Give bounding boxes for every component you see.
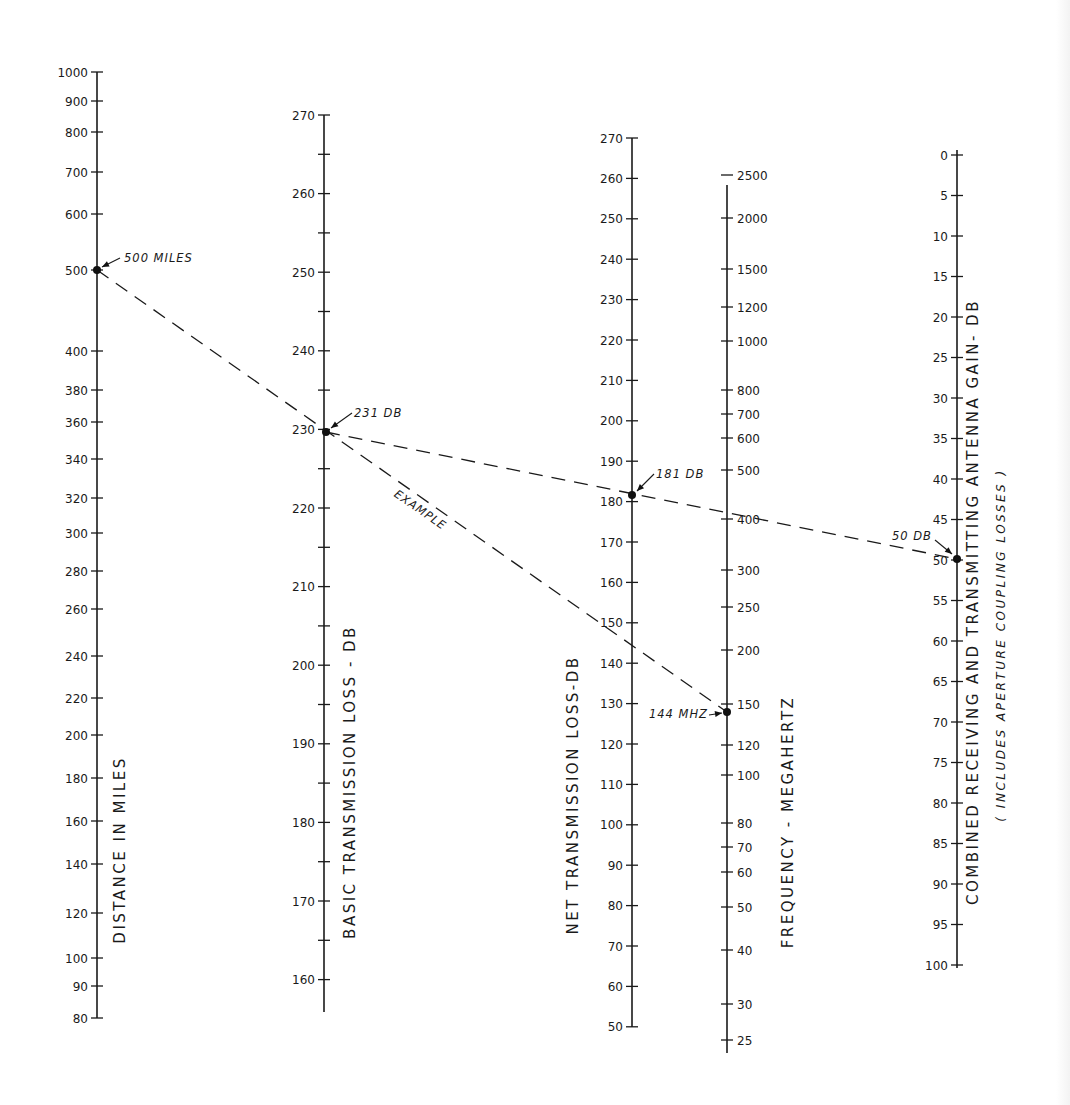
tick-label: 100 [600, 818, 623, 832]
point-label: 144 MHZ [649, 707, 708, 721]
tick-label: 140 [65, 858, 88, 872]
tick-label: 65 [933, 675, 948, 689]
tick-label: 800 [65, 126, 88, 140]
tick-label: 180 [292, 816, 315, 830]
tick-label: 500 [737, 464, 760, 478]
tick-label: 2000 [737, 212, 768, 226]
tick-label: 120 [737, 739, 760, 753]
tick-label: 270 [292, 109, 315, 123]
tick-label: 160 [600, 576, 623, 590]
axis-title: DISTANCE IN MILES [111, 756, 129, 943]
tick-label: 400 [737, 513, 760, 527]
point-marker [93, 266, 101, 274]
tick-label: 240 [292, 344, 315, 358]
tick-label: 1000 [737, 335, 768, 349]
tick-label: 150 [600, 616, 623, 630]
tick-label: 80 [933, 797, 948, 811]
tick-label: 260 [65, 603, 88, 617]
tick-label: 180 [65, 772, 88, 786]
tick-label: 700 [737, 408, 760, 422]
tick-label: 100 [65, 952, 88, 966]
tick-label: 25 [737, 1034, 752, 1048]
axis-title: BASIC TRANSMISSION LOSS - DB [341, 625, 359, 939]
tick-label: 380 [65, 384, 88, 398]
tick-label: 200 [65, 729, 88, 743]
tick-label: 15 [933, 270, 948, 284]
tick-label: 280 [65, 565, 88, 579]
tick-label: 2500 [737, 169, 768, 183]
tick-label: 70 [608, 940, 623, 954]
axis-net_loss: 2702602502402302202102001901801701601501… [564, 132, 638, 1035]
arrowhead-icon [331, 421, 338, 428]
tick-label: 220 [65, 692, 88, 706]
tick-label: 230 [600, 293, 623, 307]
tick-label: 80 [73, 1012, 88, 1026]
point-marker [953, 555, 961, 563]
example-point-antenna_gain: 50 DB [892, 529, 961, 563]
tick-label: 70 [933, 716, 948, 730]
tick-label: 40 [737, 944, 752, 958]
tick-label: 160 [65, 815, 88, 829]
tick-label: 600 [737, 432, 760, 446]
axis-subtitle: ( INCLUDES APERTURE COUPLING LOSSES ) [994, 468, 1008, 821]
tick-label: 85 [933, 837, 948, 851]
example-point-net_loss: 181 DB [628, 467, 704, 499]
point-label: 181 DB [656, 467, 704, 481]
point-marker [628, 491, 636, 499]
tick-label: 190 [600, 455, 623, 469]
tick-label: 360 [65, 416, 88, 430]
axis-frequency: 2500200015001200100080070060050040030025… [721, 169, 797, 1054]
tick-label: 80 [608, 899, 623, 913]
tick-label: 250 [292, 266, 315, 280]
tick-label: 220 [292, 502, 315, 516]
nomogram-chart: 1000900800700600500400380360340320300280… [0, 0, 1070, 1105]
tick-label: 250 [600, 212, 623, 226]
tick-label: 170 [600, 536, 623, 550]
tick-label: 60 [608, 980, 623, 994]
tick-label: 100 [737, 769, 760, 783]
tick-label: 1200 [737, 301, 768, 315]
tick-label: 35 [933, 432, 948, 446]
tick-label: 150 [737, 698, 760, 712]
tick-label: 120 [65, 907, 88, 921]
tick-label: 55 [933, 594, 948, 608]
tick-label: 600 [65, 208, 88, 222]
tick-label: 340 [65, 453, 88, 467]
tick-label: 20 [933, 311, 948, 325]
tick-label: 400 [65, 345, 88, 359]
tick-label: 230 [292, 423, 315, 437]
example-label: EXAMPLE [391, 487, 449, 533]
tick-label: 80 [737, 817, 752, 831]
point-label: 231 DB [354, 406, 402, 420]
tick-label: 0 [940, 149, 948, 163]
tick-label: 320 [65, 492, 88, 506]
tick-label: 30 [737, 998, 752, 1012]
tick-label: 140 [600, 657, 623, 671]
tick-label: 260 [292, 187, 315, 201]
arrowhead-icon [715, 711, 722, 717]
tick-label: 170 [292, 895, 315, 909]
tick-label: 220 [600, 334, 623, 348]
tick-label: 300 [65, 527, 88, 541]
axis-distance: 1000900800700600500400380360340320300280… [57, 66, 129, 1026]
tick-label: 95 [933, 918, 948, 932]
tick-label: 120 [600, 738, 623, 752]
point-marker [322, 428, 330, 436]
tick-label: 50 [737, 901, 752, 915]
tick-label: 60 [933, 635, 948, 649]
example-point-distance: 500 MILES [93, 251, 193, 274]
tick-label: 30 [933, 392, 948, 406]
example-point-frequency: 144 MHZ [649, 707, 731, 721]
tick-label: 180 [600, 495, 623, 509]
point-label: 50 DB [892, 529, 932, 543]
tick-label: 200 [600, 414, 623, 428]
tick-label: 110 [600, 778, 623, 792]
tick-label: 100 [925, 959, 948, 973]
tick-label: 40 [933, 473, 948, 487]
tick-label: 260 [600, 172, 623, 186]
tick-label: 210 [292, 580, 315, 594]
tick-label: 90 [933, 878, 948, 892]
tick-label: 240 [600, 253, 623, 267]
example-layer: EXAMPLE500 MILES231 DB144 MHZ181 DB50 DB [93, 251, 961, 721]
tick-label: 45 [933, 513, 948, 527]
